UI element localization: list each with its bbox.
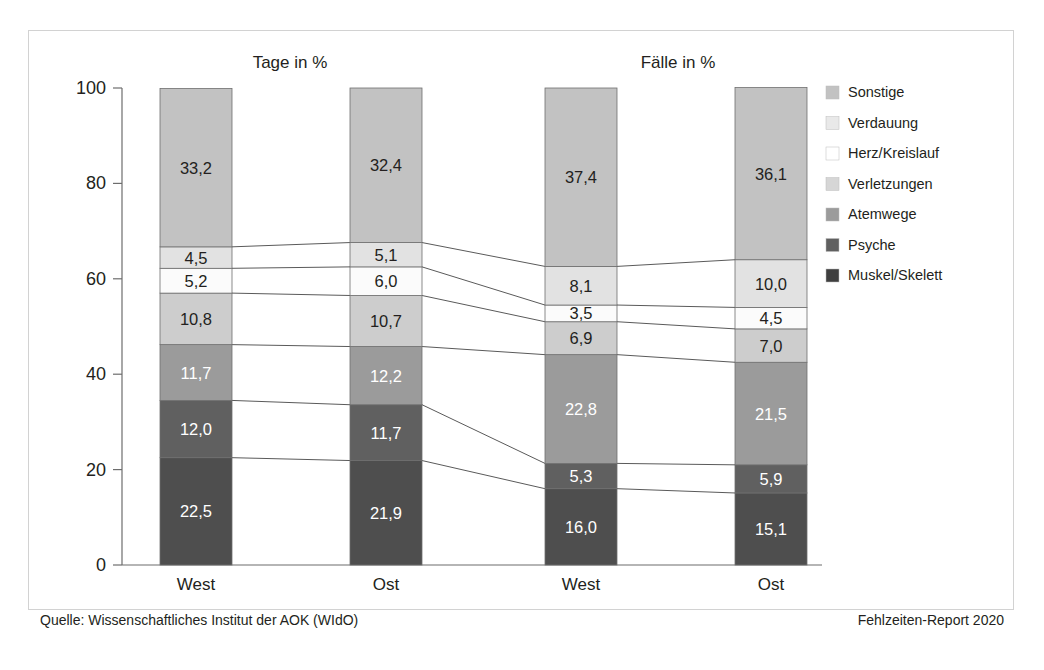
bar-segment-value-label: 7,0: [760, 337, 783, 355]
x-axis-category-label: Ost: [373, 575, 400, 594]
panel-header-faelle: Fälle in %: [641, 53, 716, 72]
segment-connector-line: [422, 347, 545, 355]
y-axis-tick-label: 80: [86, 173, 106, 193]
segment-connector-line: [617, 322, 735, 329]
bar-segment-value-label: 5,3: [570, 467, 593, 485]
bar-segment-value-label: 21,9: [370, 504, 402, 522]
legend-label: Herz/Kreislauf: [848, 145, 940, 161]
legend-label: Sonstige: [848, 84, 904, 100]
bar-segment-value-label: 22,5: [180, 502, 212, 520]
bar-segment-value-label: 12,0: [180, 420, 212, 438]
legend-swatch: [826, 147, 839, 160]
stacked-bar-chart: 020406080100Tage in %Fälle in %22,512,01…: [0, 0, 1044, 670]
segment-connector-line: [232, 458, 350, 461]
x-axis-category-label: Ost: [758, 575, 785, 594]
bar-segment-value-label: 33,2: [180, 159, 212, 177]
segment-connector-line: [232, 293, 350, 295]
legend-swatch: [826, 269, 839, 282]
legend-label: Verletzungen: [848, 176, 933, 192]
y-axis-tick-label: 100: [76, 78, 106, 98]
bar-segment-value-label: 11,7: [371, 424, 402, 442]
segment-connector-line: [617, 463, 735, 464]
y-axis-tick-label: 60: [86, 269, 106, 289]
x-axis-category-label: West: [562, 575, 601, 594]
segment-connector-line: [232, 267, 350, 268]
legend-label: Verdauung: [848, 115, 918, 131]
bar-segment-value-label: 5,1: [375, 246, 398, 264]
source-note: Quelle: Wissenschaftliches Institut der …: [40, 612, 358, 628]
bar-segment-value-label: 3,5: [570, 304, 593, 322]
bar-segment-value-label: 12,2: [370, 367, 402, 385]
segment-connector-line: [617, 355, 735, 363]
legend-label: Psyche: [848, 237, 896, 253]
bar-segment-value-label: 6,0: [375, 272, 398, 290]
segment-connector-line: [422, 405, 545, 464]
bar-segment-value-label: 10,0: [755, 275, 787, 293]
legend-swatch: [826, 208, 839, 221]
legend-label: Atemwege: [848, 206, 917, 222]
bar-segment-value-label: 4,5: [760, 309, 783, 327]
bar-segment-value-label: 10,8: [180, 310, 212, 328]
y-axis-tick-label: 20: [86, 460, 106, 480]
bar-segment-value-label: 10,7: [370, 312, 402, 330]
segment-connector-line: [232, 400, 350, 404]
legend-swatch: [826, 178, 839, 191]
panel-header-tage: Tage in %: [253, 53, 328, 72]
bar-segment-value-label: 16,0: [565, 518, 597, 536]
segment-connector-line: [422, 243, 545, 267]
bar-segment-value-label: 37,4: [565, 168, 597, 186]
legend-swatch: [826, 117, 839, 130]
legend-label: Muskel/Skelett: [848, 267, 942, 283]
bar-segment-value-label: 36,1: [755, 165, 787, 183]
legend-swatch: [826, 86, 839, 99]
bar-segment-value-label: 21,5: [755, 405, 787, 423]
segment-connector-line: [617, 260, 735, 267]
segment-connector-line: [232, 243, 350, 247]
y-axis-tick-label: 40: [86, 364, 106, 384]
x-axis-category-label: West: [177, 575, 216, 594]
segment-connector-line: [422, 461, 545, 489]
bar-segment-value-label: 11,7: [181, 364, 212, 382]
segment-connector-line: [232, 345, 350, 347]
report-note: Fehlzeiten-Report 2020: [858, 612, 1005, 628]
legend-swatch: [826, 239, 839, 252]
bar-segment-value-label: 8,1: [570, 277, 593, 295]
bar-segment-value-label: 6,9: [570, 329, 593, 347]
bar-segment-value-label: 15,1: [755, 520, 787, 538]
bar-segment-value-label: 5,9: [760, 470, 783, 488]
figure-root: 020406080100Tage in %Fälle in %22,512,01…: [0, 0, 1044, 670]
bar-segment-value-label: 4,5: [185, 249, 208, 267]
bar-segment-value-label: 22,8: [565, 400, 597, 418]
y-axis-tick-label: 0: [96, 555, 106, 575]
bar-segment-value-label: 32,4: [370, 156, 402, 174]
segment-connector-line: [617, 489, 735, 493]
segment-connector-line: [617, 305, 735, 307]
bar-segment-value-label: 5,2: [185, 272, 208, 290]
